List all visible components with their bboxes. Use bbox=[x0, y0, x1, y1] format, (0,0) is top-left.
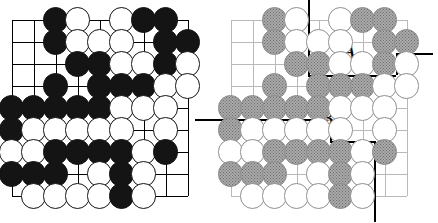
stone-black[interactable] bbox=[372, 139, 397, 164]
go-board-right[interactable]: ABC bbox=[219, 0, 438, 223]
stone-white[interactable] bbox=[394, 73, 419, 98]
go-board-left[interactable] bbox=[0, 0, 219, 223]
stone-white[interactable] bbox=[175, 73, 200, 98]
stone-white[interactable] bbox=[350, 183, 375, 208]
figure-root: ABC bbox=[0, 0, 438, 223]
stone-white[interactable] bbox=[131, 183, 156, 208]
stone-black[interactable] bbox=[153, 139, 178, 164]
